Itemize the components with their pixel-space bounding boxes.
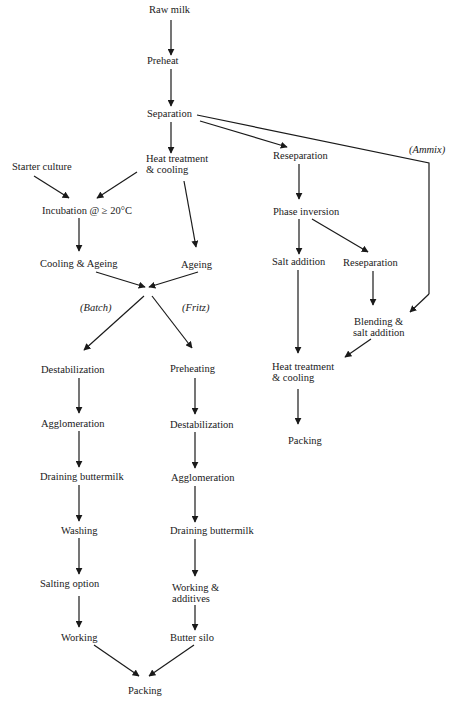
node-blending-line2: salt addition xyxy=(353,327,405,338)
arrow-starter-to-incubation xyxy=(34,176,69,198)
arrow-batch-working-to-packing xyxy=(94,645,139,676)
node-fritz-agglomeration: Agglomeration xyxy=(171,472,235,483)
arrow-cooling-ageing-to-junction xyxy=(96,272,145,287)
node-reseparation-2: Reseparation xyxy=(343,257,399,268)
node-heat-treatment-line1: Heat treatment xyxy=(146,153,208,164)
node-heat-treatment-line2: & cooling xyxy=(146,164,189,175)
node-ageing: Ageing xyxy=(181,259,213,270)
node-heat-treatment-2-line1: Heat treatment xyxy=(272,361,334,372)
node-starter-culture: Starter culture xyxy=(12,161,72,172)
node-blending-line1: Blending & xyxy=(354,316,403,327)
node-batch-draining: Draining buttermilk xyxy=(40,471,124,482)
node-incubation: Incubation @ ≥ 20°C xyxy=(42,205,132,216)
arrow-phase-inversion-to-reseparation-2 xyxy=(312,219,368,252)
node-fritz-working-additives: Working & additives xyxy=(172,582,222,604)
node-batch-washing: Washing xyxy=(61,525,98,536)
node-batch-salting: Salting option xyxy=(40,578,100,589)
node-heat-treatment-cooling-2: Heat treatment & cooling xyxy=(272,361,337,383)
node-batch-agglomeration: Agglomeration xyxy=(41,418,105,429)
node-preheat: Preheat xyxy=(147,55,179,66)
label-fritz: (Fritz) xyxy=(182,302,210,314)
node-raw-milk: Raw milk xyxy=(149,4,191,15)
node-packing-main: Packing xyxy=(128,685,163,696)
node-fritz-working-line2: additives xyxy=(172,593,210,604)
node-batch-destabilization: Destabilization xyxy=(41,364,105,375)
node-separation: Separation xyxy=(147,108,193,119)
node-fritz-preheating: Preheating xyxy=(170,363,216,374)
arrow-fritz-silo-to-packing xyxy=(149,645,194,676)
node-fritz-draining: Draining buttermilk xyxy=(170,525,254,536)
node-cooling-ageing: Cooling & Ageing xyxy=(40,258,118,269)
node-fritz-butter-silo: Butter silo xyxy=(170,632,214,643)
node-blending: Blending & salt addition xyxy=(353,316,406,338)
arrow-blending-to-heat-treatment xyxy=(345,339,371,357)
node-batch-working: Working xyxy=(61,632,98,643)
label-ammix: (Ammix) xyxy=(409,144,446,156)
node-salt-addition: Salt addition xyxy=(272,256,326,267)
node-packing-right: Packing xyxy=(288,435,323,446)
arrow-heat-to-incubation xyxy=(97,172,137,198)
arrow-heat-to-ageing xyxy=(184,181,196,247)
label-batch: (Batch) xyxy=(80,302,112,314)
node-fritz-destabilization: Destabilization xyxy=(170,419,234,430)
node-phase-inversion: Phase inversion xyxy=(273,206,340,217)
node-heat-treatment-2-line2: & cooling xyxy=(272,372,315,383)
arrow-ageing-to-junction xyxy=(149,272,198,287)
node-reseparation-1: Reseparation xyxy=(273,150,329,161)
butter-process-flowchart: Raw milk Preheat Separation (Ammix) Heat… xyxy=(0,0,457,707)
arrow-ammix-to-blending xyxy=(410,294,429,312)
node-heat-treatment-cooling: Heat treatment & cooling xyxy=(146,153,211,175)
node-fritz-working-line1: Working & xyxy=(172,582,219,593)
